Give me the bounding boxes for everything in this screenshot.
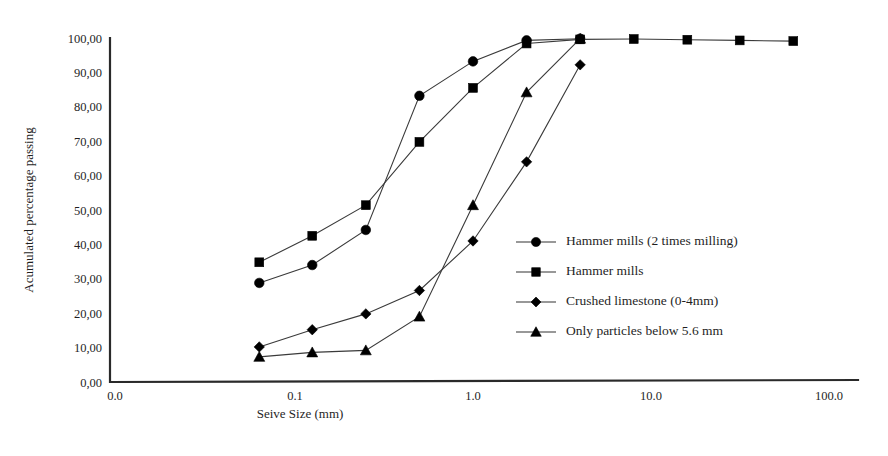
series-line [259,39,793,262]
series-4 [254,33,586,361]
data-point-marker-square [789,37,798,46]
x-tick-label: 0.0 [107,389,123,403]
data-point-marker-diamond [361,309,371,319]
y-tick-label: 80,00 [74,100,102,114]
chart-canvas: 0,0010,0020,0030,0040,0050,0060,0070,008… [0,0,888,456]
x-tick-label: 0.1 [287,389,303,403]
x-axis-title: Seive Size (mm) [257,406,344,421]
sieve-analysis-chart: 0,0010,0020,0030,0040,0050,0060,0070,008… [0,0,888,456]
legend-item-label: Only particles below 5.6 mm [566,323,724,338]
data-point-marker-diamond [531,297,541,307]
data-point-marker-triangle [468,200,479,210]
data-point-marker-circle [361,225,371,235]
series-line [259,65,580,347]
y-tick-label: 50,00 [74,204,102,218]
data-point-marker-square [735,36,744,45]
legend-item-label: Hammer mills [566,263,644,278]
y-tick-label: 100,00 [68,32,102,46]
data-point-marker-square [361,201,370,210]
data-series-layer [254,33,798,361]
y-tick-label: 70,00 [74,135,102,149]
y-tick-label: 30,00 [74,272,102,286]
legend-item-label: Hammer mills (2 times milling) [566,233,738,248]
x-axis-tick-labels: 0.00.11.010.0100.0 [107,389,843,403]
data-point-marker-circle [254,278,264,288]
y-tick-label: 0,00 [80,376,102,390]
data-point-marker-square [469,83,478,92]
x-tick-label: 10.0 [640,389,662,403]
y-tick-label: 60,00 [74,169,102,183]
chart-axes [110,38,858,382]
y-tick-label: 20,00 [74,307,102,321]
data-point-marker-circle [415,91,425,101]
legend-item-4[interactable]: Only particles below 5.6 mm [516,323,724,338]
series-line [259,39,580,283]
y-tick-label: 90,00 [74,66,102,80]
data-point-marker-circle [468,57,478,67]
data-point-marker-square [522,39,531,48]
data-point-marker-square [683,35,692,44]
series-line [259,39,580,357]
y-axis-tick-labels: 0,0010,0020,0030,0040,0050,0060,0070,008… [68,32,102,390]
y-axis-title: Acumulated percentage passing [21,127,36,293]
legend-item-label: Crushed limestone (0-4mm) [566,293,718,308]
x-tick-label: 1.0 [465,389,481,403]
data-point-marker-diamond [307,325,317,335]
data-point-marker-diamond [575,60,585,70]
chart-legend: Hammer mills (2 times milling)Hammer mil… [516,233,738,338]
data-point-marker-square [532,268,541,277]
y-tick-label: 40,00 [74,238,102,252]
data-point-marker-square [255,258,264,267]
data-point-marker-square [308,231,317,240]
data-point-marker-circle [531,237,540,246]
legend-item-3[interactable]: Crushed limestone (0-4mm) [516,293,718,308]
x-tick-label: 100.0 [815,389,843,403]
series-3 [254,60,585,352]
data-point-marker-diamond [521,157,531,167]
legend-item-2[interactable]: Hammer mills [516,263,644,278]
series-1 [254,34,584,288]
data-point-marker-diamond [254,342,264,352]
data-point-marker-square [629,35,638,44]
data-point-marker-triangle [360,345,371,355]
data-point-marker-circle [307,260,317,270]
series-2 [255,35,798,267]
data-point-marker-square [415,137,424,146]
data-point-marker-triangle [414,311,425,321]
legend-item-1[interactable]: Hammer mills (2 times milling) [516,233,738,248]
y-tick-label: 10,00 [74,341,102,355]
